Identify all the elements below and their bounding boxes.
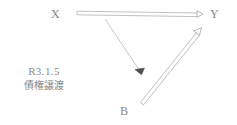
edge-x-to-b — [105, 19, 144, 75]
edge-b-to-y-right-stroke — [144, 34, 201, 105]
diagram-graphics — [0, 0, 237, 125]
node-label-b: B — [120, 104, 128, 119]
diagram-canvas: X Y B R3.1.5 債権譲渡 — [0, 0, 237, 125]
edge-x-to-y — [77, 11, 203, 18]
edge-b-to-y-left-stroke — [140, 32, 197, 103]
solid-arrowhead-icon — [135, 68, 144, 75]
edge-x-to-b-stroke — [105, 19, 140, 71]
edge-b-to-y — [140, 28, 201, 105]
node-label-x: X — [51, 7, 60, 22]
annotation-term: 債権譲渡 — [12, 78, 76, 94]
edge-x-to-y-lower-stroke — [77, 15, 197, 17]
edge-b-to-y-tail-cap — [140, 103, 143, 105]
edge-x-to-y-upper-stroke — [77, 11, 197, 13]
node-label-y: Y — [210, 7, 219, 22]
annotation-block: R3.1.5 債権譲渡 — [12, 64, 76, 94]
open-arrowhead-icon — [197, 11, 203, 18]
annotation-date: R3.1.5 — [12, 64, 76, 78]
